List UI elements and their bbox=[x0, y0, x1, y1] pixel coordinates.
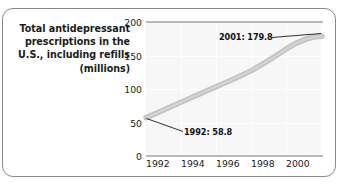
leader-line-1992 bbox=[147, 119, 184, 132]
annotation-1992: 1992: 58.8 bbox=[184, 127, 232, 137]
annotation-2001: 2001: 179.8 bbox=[219, 32, 273, 42]
y-tick-100: 100 bbox=[112, 84, 142, 95]
chart-figure: Total antidepressant prescriptions in th… bbox=[0, 0, 342, 185]
x-tick-1992: 1992 bbox=[146, 158, 170, 169]
y-tick-200: 200 bbox=[112, 17, 142, 28]
y-tick-150: 150 bbox=[112, 51, 142, 62]
y-tick-0: 0 bbox=[112, 151, 142, 162]
y-tick-50: 50 bbox=[112, 118, 142, 129]
x-tick-1996: 1996 bbox=[216, 158, 240, 169]
y-axis-ticks: 200 150 100 50 0 bbox=[108, 0, 142, 185]
x-tick-1994: 1994 bbox=[181, 158, 205, 169]
x-axis-ticks: 1992 1994 1996 1998 2000 bbox=[146, 158, 342, 174]
x-tick-1998: 1998 bbox=[251, 158, 275, 169]
x-tick-2000: 2000 bbox=[286, 158, 310, 169]
